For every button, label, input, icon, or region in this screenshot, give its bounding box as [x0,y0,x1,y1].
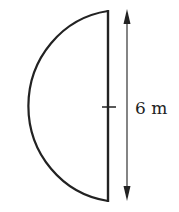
arrowhead-down-icon [124,186,131,201]
semicircle-diagram: 6 m [0,0,179,212]
semicircle-arc [28,11,108,201]
arrowhead-up-icon [124,9,131,24]
dimension-label: 6 m [135,98,167,118]
